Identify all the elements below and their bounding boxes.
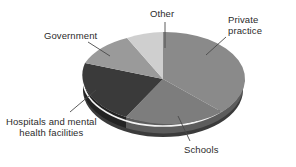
pie-label-hospitals: Hospitals and mentalhealth facilities [6,116,97,138]
pie-chart-figure: Privatepractice Other Government Hospita… [0,0,296,167]
pie-label-private-practice: Privatepractice [228,14,262,36]
pie-label-government: Government [44,30,97,41]
pie-label-private-practice-line1: Private [228,14,258,25]
pie-label-hospitals-line1: Hospitals and mental [6,116,97,127]
pie-label-hospitals-line2: health facilities [19,127,83,138]
pie-label-other: Other [150,8,174,19]
pie-label-private-practice-line2: practice [228,25,262,36]
pie-label-schools: Schools [184,144,219,155]
